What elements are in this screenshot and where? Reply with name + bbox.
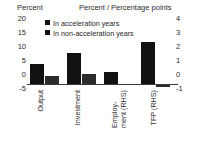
x-label-investment: Investment [74,90,83,125]
y-tick-right-0: 4 [176,15,198,23]
y-tick-right-1: 3 [176,29,198,37]
y-tick-left-5: -5 [0,85,26,93]
x-label-output: Output [37,90,46,112]
bar-group-output [29,19,63,85]
bar-output-acceleration [30,64,44,85]
y-tick-right-4: 0 [176,71,198,79]
bar-group-investment [66,19,100,85]
y-tick-left-1: 15 [0,29,26,37]
y-tick-right-3: 1 [176,57,198,65]
bar-group-tfp [140,19,174,85]
bar-tfp-non-acceleration [156,85,170,87]
plot-area [29,19,176,85]
y-tick-right-2: 2 [176,43,198,51]
x-label-employment: Employ- ment (RHS) [111,90,128,128]
right-axis-unit-label: Percent / Percentage points [79,3,172,12]
bar-investment-acceleration [67,53,81,85]
y-tick-left-0: 20 [0,15,26,23]
zero-baseline [27,84,178,85]
y-tick-left-3: 5 [0,57,26,65]
bar-tfp-acceleration [141,42,155,85]
y-tick-left-4: 0 [0,71,26,79]
bar-group-employment [103,19,137,85]
y-tick-left-2: 10 [0,43,26,51]
bar-chart: Percent Percent / Percentage points 20 1… [0,0,202,160]
left-axis-unit-label: Percent [17,3,43,12]
y-tick-right-5: -1 [176,85,198,93]
x-label-tfp: TFP (RHS) [150,90,159,125]
